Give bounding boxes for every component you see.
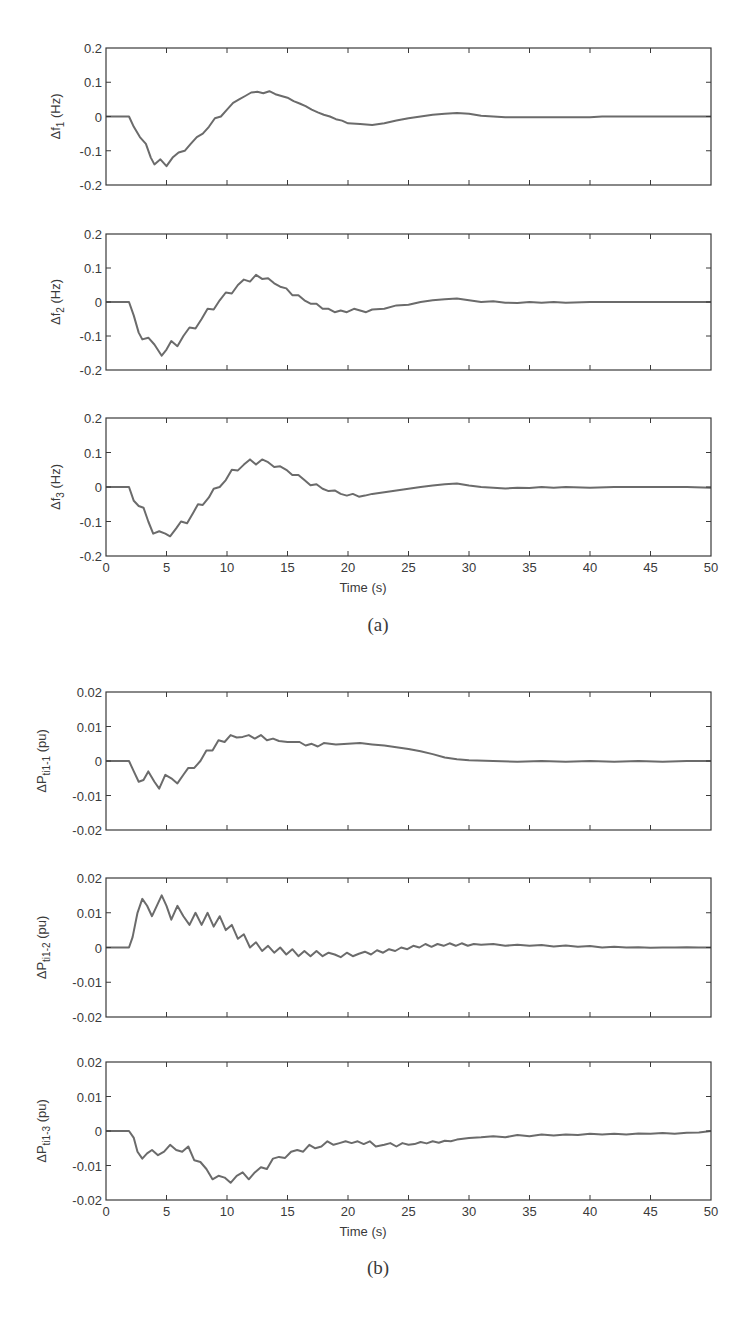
panel-b-caption: (b): [367, 1257, 389, 1279]
x-tick-label: 5: [163, 560, 170, 575]
y-tick-label: -0.02: [72, 1193, 102, 1208]
x-tick-label: 30: [462, 560, 476, 575]
x-tick-label: 10: [220, 560, 234, 575]
x-tick-label: 20: [341, 560, 355, 575]
subplot-1: 0.20.10-0.1-0.2Δf1 (Hz): [48, 41, 711, 193]
y-tick-label: -0.1: [80, 329, 102, 344]
y-axis-label: ΔPti1-1 (pu): [34, 729, 52, 793]
x-tick-label: 0: [102, 1204, 109, 1219]
y-tick-label: 0.2: [84, 227, 102, 242]
x-tick-label: 40: [583, 1204, 597, 1219]
y-tick-label: 0: [95, 1124, 102, 1139]
data-line: [106, 91, 711, 166]
x-tick-label: 20: [341, 1204, 355, 1219]
x-tick-label: 15: [280, 560, 294, 575]
y-tick-label: -0.1: [80, 144, 102, 159]
y-tick-label: 0: [95, 754, 102, 769]
y-tick-label: -0.1: [80, 515, 102, 530]
y-tick-label: 0.1: [84, 446, 102, 461]
y-tick-label: 0.02: [77, 871, 102, 886]
y-tick-label: -0.01: [72, 1159, 102, 1174]
subplot-3: 051015202530354045500.20.10-0.1-0.2Δf3 (…: [48, 411, 718, 575]
x-tick-label: 5: [163, 1204, 170, 1219]
subplot-4: 0.020.010-0.01-0.02ΔPti1-1 (pu): [34, 685, 711, 838]
data-line: [106, 275, 711, 356]
y-tick-label: 0.2: [84, 411, 102, 426]
y-tick-label: -0.01: [72, 789, 102, 804]
subplot-2: 0.20.10-0.1-0.2Δf2 (Hz): [48, 227, 711, 378]
subplot-5: 0.020.010-0.01-0.02ΔPti1-2 (pu): [34, 871, 711, 1025]
y-axis-label: Δf3 (Hz): [48, 464, 66, 510]
y-tick-label: -0.2: [80, 363, 102, 378]
panel-b-xlabel: Time (s): [339, 1224, 386, 1239]
x-tick-label: 35: [522, 1204, 536, 1219]
data-line: [106, 1131, 711, 1183]
x-tick-label: 30: [462, 1204, 476, 1219]
x-tick-label: 50: [704, 1204, 718, 1219]
y-tick-label: 0: [95, 295, 102, 310]
y-axis-label: ΔPti1-2 (pu): [34, 916, 52, 980]
y-tick-label: 0.1: [84, 261, 102, 276]
x-tick-label: 45: [643, 560, 657, 575]
y-tick-label: 0.01: [77, 1090, 102, 1105]
y-axis-label: ΔPti1-3 (pu): [34, 1099, 52, 1163]
y-tick-label: 0.2: [84, 41, 102, 56]
x-tick-label: 15: [280, 1204, 294, 1219]
y-axis-label: Δf2 (Hz): [48, 279, 66, 325]
y-tick-label: 0: [95, 941, 102, 956]
y-tick-label: 0.01: [77, 906, 102, 921]
x-tick-label: 50: [704, 560, 718, 575]
x-tick-label: 35: [522, 560, 536, 575]
x-tick-label: 10: [220, 1204, 234, 1219]
data-line: [106, 459, 711, 536]
x-tick-label: 40: [583, 560, 597, 575]
panel-a-xlabel: Time (s): [339, 580, 386, 595]
y-tick-label: 0: [95, 110, 102, 125]
y-tick-label: 0.1: [84, 75, 102, 90]
panel-a-caption: (a): [367, 614, 388, 636]
y-tick-label: 0.01: [77, 720, 102, 735]
y-tick-label: 0.02: [77, 1055, 102, 1070]
x-tick-label: 25: [401, 560, 415, 575]
axes-box: [106, 1062, 711, 1200]
x-tick-label: 25: [401, 1204, 415, 1219]
y-tick-label: -0.2: [80, 549, 102, 564]
y-tick-label: -0.02: [72, 1010, 102, 1025]
y-tick-label: -0.02: [72, 823, 102, 838]
data-line: [106, 735, 711, 789]
y-tick-label: -0.2: [80, 178, 102, 193]
y-tick-label: -0.01: [72, 975, 102, 990]
y-tick-label: 0: [95, 480, 102, 495]
y-tick-label: 0.02: [77, 685, 102, 700]
figure: 0.20.10-0.1-0.2Δf1 (Hz)0.20.10-0.1-0.2Δf…: [0, 0, 750, 1325]
y-axis-label: Δf1 (Hz): [48, 93, 66, 139]
data-line: [106, 895, 711, 957]
x-tick-label: 0: [102, 560, 109, 575]
x-tick-label: 45: [643, 1204, 657, 1219]
subplot-6: 051015202530354045500.020.010-0.01-0.02Δ…: [34, 1055, 718, 1219]
